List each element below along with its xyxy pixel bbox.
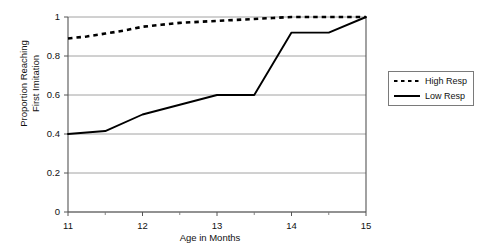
x-tick-label: 15 [351,220,381,231]
x-tick-label: 12 [128,220,158,231]
y-tick-label: 0.4 [26,128,60,139]
tick-marks [64,17,366,216]
y-axis-title-line2: First Imitation [29,0,41,169]
x-axis-title: Age in Months [130,232,290,243]
y-tick-label: 0.8 [26,50,60,61]
y-tick-label: 0.6 [26,89,60,100]
x-tick-label: 14 [277,220,307,231]
legend-entry-high-resp: High Resp [393,74,467,88]
axis-lines [68,17,366,212]
series-line-low-resp [68,17,366,134]
plot-area [0,0,479,249]
x-tick-label: 13 [202,220,232,231]
chart-figure: Proportion Reaching First Imitation Age … [0,0,479,249]
legend: High Resp Low Resp [388,71,474,106]
y-axis-title: Proportion Reaching First Imitation [18,0,41,169]
legend-swatch-dashed [393,76,421,86]
legend-swatch-solid [393,91,421,101]
series-lines [68,17,366,134]
x-tick-label: 11 [53,220,83,231]
y-tick-label: 1 [26,11,60,22]
gridlines [68,17,366,212]
legend-label-low-resp: Low Resp [425,91,465,101]
y-tick-label: 0 [26,206,60,217]
y-tick-label: 0.2 [26,167,60,178]
y-axis-title-line1: Proportion Reaching [18,0,30,169]
series-line-high-resp [68,17,366,38]
legend-entry-low-resp: Low Resp [393,89,465,103]
legend-label-high-resp: High Resp [425,76,467,86]
